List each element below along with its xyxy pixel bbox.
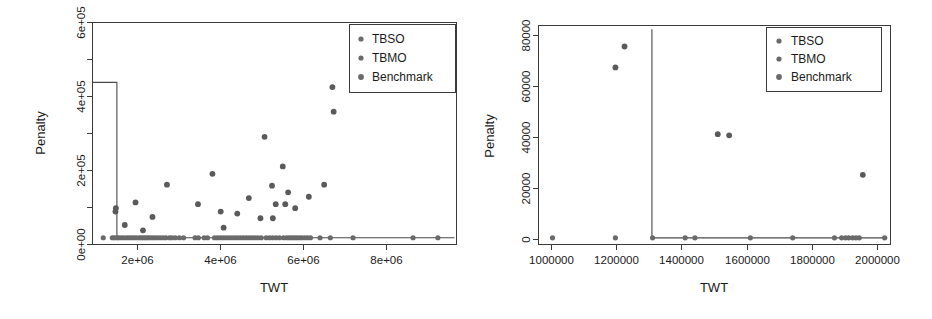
- right-legend-label-tbmo: TBMO: [791, 52, 826, 66]
- right-ytick-label-3: 60000: [520, 71, 532, 103]
- left-legend-label-tbso: TBSO: [372, 32, 405, 46]
- data-point: [748, 235, 753, 240]
- data-point: [280, 164, 286, 170]
- data-point: [350, 235, 355, 240]
- right-xtick-label-5: 2000000: [855, 254, 900, 266]
- data-point: [133, 200, 139, 206]
- data-point: [435, 235, 440, 240]
- data-point: [650, 235, 655, 240]
- left-panel-svg: 0e+00 2e+05 4e+05 6e+05 Penalty 2e+06 4e…: [0, 0, 466, 319]
- data-point: [285, 189, 291, 195]
- data-point: [306, 194, 312, 200]
- data-point: [101, 235, 106, 240]
- right-legend-label-benchmark: Benchmark: [791, 70, 853, 84]
- data-point: [683, 235, 688, 240]
- right-y-axis-ticks: [533, 36, 539, 240]
- data-point: [150, 214, 156, 220]
- left-legend-dot-benchmark: [358, 74, 364, 80]
- data-point: [221, 225, 227, 231]
- data-point: [258, 215, 264, 221]
- right-ytick-label-4: 80000: [520, 20, 532, 52]
- left-x-axis-ticks: [138, 245, 387, 251]
- data-point: [331, 109, 337, 115]
- data-point: [292, 205, 298, 211]
- left-xtick-label-1: 4e+06: [204, 254, 236, 266]
- right-legend-dot-benchmark: [776, 74, 782, 80]
- right-panel-svg: 0 20000 40000 60000 80000 Penalty 100000…: [466, 0, 932, 319]
- data-point: [726, 132, 732, 138]
- right-xtick-label-4: 1800000: [790, 254, 835, 266]
- data-point: [282, 201, 288, 207]
- right-y-axis-title: Penalty: [482, 114, 497, 158]
- data-point: [205, 235, 210, 240]
- data-point: [113, 205, 119, 211]
- data-point: [262, 134, 268, 140]
- data-point: [328, 235, 333, 240]
- right-xtick-label-2: 1400000: [659, 254, 704, 266]
- pareto-step-line: [93, 82, 455, 237]
- left-xtick-label-3: 8e+06: [370, 254, 402, 266]
- right-xtick-label-1: 1200000: [594, 254, 639, 266]
- right-legend-dot-tbso: [776, 38, 781, 43]
- data-point: [321, 182, 327, 188]
- data-point: [622, 44, 628, 50]
- right-legend: TBSO TBMO Benchmark: [767, 28, 882, 92]
- left-xtick-label-2: 6e+06: [287, 254, 319, 266]
- data-point: [218, 209, 224, 215]
- data-point: [270, 215, 276, 221]
- data-point: [308, 235, 313, 240]
- left-y-axis-ticks: [87, 23, 93, 245]
- left-legend-label-tbmo: TBMO: [372, 51, 407, 65]
- data-point: [181, 235, 186, 240]
- data-point: [122, 222, 128, 228]
- left-ytick-label-0: 0e+00: [75, 228, 87, 260]
- data-point: [234, 211, 240, 217]
- right-xtick-label-3: 1600000: [725, 254, 770, 266]
- data-point: [832, 235, 837, 240]
- right-legend-dot-tbmo: [776, 56, 781, 61]
- right-xtick-label-0: 1000000: [529, 254, 574, 266]
- data-point: [410, 235, 415, 240]
- data-point: [330, 84, 336, 90]
- figure-two-panel-scatter: 0e+00 2e+05 4e+05 6e+05 Penalty 2e+06 4e…: [0, 0, 932, 319]
- data-point: [613, 235, 618, 240]
- left-x-axis-title: TWT: [260, 280, 288, 295]
- left-ytick-label-1: 2e+05: [75, 154, 87, 186]
- right-x-axis-title: TWT: [700, 280, 728, 295]
- chart-panel-left: 0e+00 2e+05 4e+05 6e+05 Penalty 2e+06 4e…: [0, 0, 466, 319]
- left-legend-dot-tbso: [358, 36, 363, 41]
- data-point: [317, 235, 322, 240]
- data-point: [882, 235, 887, 240]
- right-ytick-label-2: 40000: [520, 122, 532, 154]
- data-point: [210, 171, 216, 177]
- data-point: [259, 235, 264, 240]
- chart-panel-right: 0 20000 40000 60000 80000 Penalty 100000…: [466, 0, 932, 319]
- data-point: [269, 183, 275, 189]
- left-step-line-group: [93, 82, 455, 237]
- data-point: [860, 172, 866, 178]
- left-ytick-label-2: 4e+05: [75, 80, 87, 112]
- data-point: [164, 182, 170, 188]
- right-legend-label-tbso: TBSO: [791, 34, 824, 48]
- right-ytick-label-1: 20000: [520, 173, 532, 205]
- data-point: [715, 131, 721, 137]
- data-point: [692, 235, 697, 240]
- data-point: [196, 235, 201, 240]
- data-point: [195, 201, 201, 207]
- left-y-axis-title: Penalty: [33, 111, 48, 155]
- left-legend-dot-tbmo: [358, 55, 363, 60]
- left-legend: TBSO TBMO Benchmark: [350, 25, 456, 93]
- right-ytick-label-0: 0: [520, 236, 532, 242]
- data-point: [550, 235, 555, 240]
- data-point: [273, 201, 279, 207]
- data-point: [613, 65, 619, 71]
- left-xtick-label-0: 2e+06: [121, 254, 153, 266]
- left-ytick-label-3: 6e+05: [75, 6, 87, 38]
- data-point: [246, 195, 252, 201]
- left-legend-label-benchmark: Benchmark: [372, 70, 434, 84]
- data-point: [790, 235, 795, 240]
- right-x-axis-ticks: [552, 245, 878, 251]
- data-point: [857, 235, 862, 240]
- data-point: [140, 227, 146, 233]
